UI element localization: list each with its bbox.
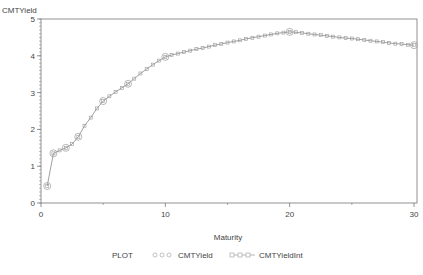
- svg-text:10: 10: [161, 210, 170, 219]
- y-axis: 012345: [31, 15, 41, 208]
- x-axis-label: Maturity: [214, 233, 242, 242]
- legend-label-cmtyieldint: CMTYieldInt: [259, 251, 303, 260]
- svg-text:4: 4: [31, 52, 36, 61]
- legend: PLOT CMTYield CMTYieldInt: [112, 251, 303, 260]
- svg-text:2: 2: [31, 125, 36, 134]
- y-axis-label: CMTYield: [2, 6, 37, 15]
- svg-text:0: 0: [31, 199, 36, 208]
- svg-text:5: 5: [31, 15, 36, 24]
- chart-canvas: 012345 0102030 CMTYield Maturity PLOT CM…: [0, 0, 423, 275]
- series-cmtyield: [44, 28, 418, 189]
- svg-text:0: 0: [39, 210, 44, 219]
- legend-label-cmtyield: CMTYield: [178, 251, 213, 260]
- svg-text:3: 3: [31, 89, 36, 98]
- svg-text:20: 20: [285, 210, 294, 219]
- legend-circle-marker-icon: [153, 253, 171, 257]
- legend-title: PLOT: [112, 251, 133, 260]
- x-axis: 0102030: [39, 203, 419, 219]
- svg-text:30: 30: [410, 210, 419, 219]
- svg-text:1: 1: [31, 162, 36, 171]
- series-cmtyieldint: [46, 30, 416, 187]
- legend-square-marker-icon: [230, 253, 255, 257]
- plot-frame: [41, 19, 417, 203]
